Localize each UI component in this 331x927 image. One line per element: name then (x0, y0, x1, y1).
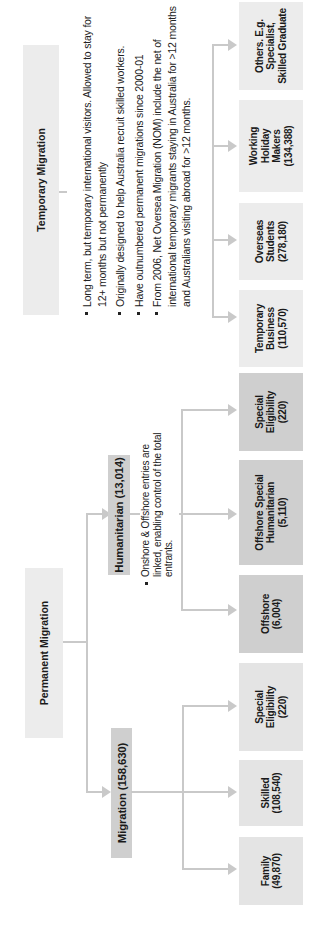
leaf-value: (134,388) (283, 111, 295, 181)
arrow-icon (228, 234, 237, 246)
arrow-icon (228, 508, 237, 520)
note-item: Originally designed to help Australia re… (113, 5, 128, 315)
temporary-notes: Long term, but temporary international v… (80, 5, 198, 315)
arrow-icon (228, 39, 237, 51)
leaf-name: Temporary Business (254, 304, 277, 354)
leaf-name: Offshore (260, 594, 272, 634)
connector-line (181, 409, 230, 411)
arrow-icon (102, 786, 111, 798)
arrow-icon (228, 604, 237, 616)
connector-line (86, 513, 88, 793)
humanitarian-label: Humanitarian (13,014) (113, 457, 125, 572)
leaf-name: Family (260, 853, 272, 889)
connector-line (182, 705, 184, 870)
leaf-value: (108,540) (271, 773, 283, 814)
migration-label: Migration (158,630) (116, 743, 128, 843)
leaf-value: (6,004) (271, 594, 283, 634)
connector-line (181, 409, 183, 611)
leaf-overseas-students: Overseas Students (278,180) (239, 203, 303, 280)
leaf-name: Working Holiday Makers (248, 111, 283, 181)
note-item: Onshore & Offshore entries are linked, e… (140, 425, 175, 585)
leaf-value: (278,180) (277, 217, 289, 267)
leaf-name: Overseas Students (254, 217, 277, 267)
arrow-icon (228, 404, 237, 416)
leaf-value: (49,870) (271, 853, 283, 889)
arrow-icon (228, 140, 237, 152)
note-item: Have outnumbered permanent migrations si… (132, 5, 147, 315)
leaf-name: Offshore Special Humanitarian (254, 473, 277, 553)
leaf-name: Skilled (260, 773, 272, 814)
leaf-name: Others. E.g. Specialist, Skilled Graduat… (254, 7, 289, 85)
permanent-migration-label: Permanent Migration (38, 601, 50, 705)
leaf-temporary-business: Temporary Business (110,570) (239, 290, 303, 367)
leaf-offshore: Offshore (6,004) (239, 575, 303, 653)
leaf-offshore-special-humanitarian: Offshore Special Humanitarian (5,110) (239, 460, 303, 565)
leaf-skilled: Skilled (108,540) (239, 760, 303, 826)
permanent-migration-box: Permanent Migration (25, 568, 63, 738)
connector-line (181, 513, 230, 515)
connector-line (59, 191, 67, 193)
migration-box: Migration (158,630) (111, 728, 132, 858)
connector-line (182, 868, 230, 870)
leaf-family: Family (49,870) (239, 837, 303, 905)
leaf-value: (5,110) (277, 473, 289, 553)
leaf-special-eligibility-migration: Special Eligibility (220) (239, 663, 303, 751)
arrow-icon (228, 311, 237, 323)
leaf-special-eligibility-humanitarian: Special Eligibility (220) (239, 373, 303, 451)
humanitarian-box: Humanitarian (13,014) (108, 455, 130, 575)
leaf-value: (220) (277, 682, 289, 732)
temporary-migration-label: Temporary Migration (35, 128, 47, 232)
leaf-others: Others. E.g. Specialist, Skilled Graduat… (239, 2, 303, 90)
arrow-icon (228, 700, 237, 712)
leaf-name: Special Eligibility (254, 682, 277, 732)
arrow-icon (228, 863, 237, 875)
temporary-migration-box: Temporary Migration (23, 45, 59, 315)
leaf-value: (220) (277, 387, 289, 437)
connector-line (131, 791, 183, 793)
humanitarian-note: Onshore & Offshore entries are linked, e… (140, 425, 179, 585)
arrow-icon (228, 786, 237, 798)
connector-line (212, 44, 214, 318)
migration-diagram: Permanent Migration Migration (158,630) … (0, 0, 331, 927)
connector-line (63, 641, 87, 643)
connector-line (182, 791, 230, 793)
note-item: From 2006, Net Oversea Migration (NOM) i… (150, 5, 194, 315)
connector-line (182, 705, 230, 707)
leaf-name: Special Eligibility (254, 387, 277, 437)
connector-line (181, 609, 230, 611)
leaf-working-holiday-makers: Working Holiday Makers (134,388) (239, 100, 303, 192)
note-item: Long term, but temporary international v… (80, 5, 109, 315)
leaf-value: (110,570) (277, 304, 289, 354)
